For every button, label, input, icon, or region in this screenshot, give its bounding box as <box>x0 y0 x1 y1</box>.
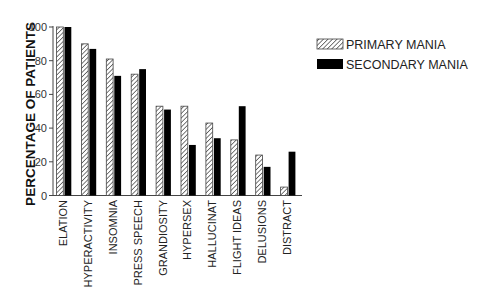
bar-secondary <box>264 167 271 196</box>
x-category-label: FLIGHT IDEAS <box>231 200 243 275</box>
bar-secondary <box>189 145 196 196</box>
y-tick-label: 60 <box>35 88 47 100</box>
bar-primary <box>181 106 188 195</box>
legend-item-secondary: SECONDARY MANIA <box>317 58 468 72</box>
bar-primary <box>231 140 238 196</box>
bar-primary <box>156 106 163 195</box>
x-category-label: HYPERSEX <box>181 199 193 260</box>
x-category-label: GRANDIOSITY <box>157 199 169 275</box>
x-category-label: DISTRACT <box>281 200 293 255</box>
x-category-label: HYPERACTIVITY <box>82 199 94 287</box>
y-axis-label: PERCENTAGE OF PATIENTS <box>23 22 38 206</box>
bar-primary <box>206 123 213 195</box>
legend-label-primary: PRIMARY MANIA <box>346 38 446 52</box>
bar-primary <box>57 27 64 196</box>
bar-secondary <box>289 152 296 196</box>
legend-label-secondary: SECONDARY MANIA <box>346 58 468 72</box>
y-tick-label: 0 <box>41 190 47 202</box>
y-tick-label: 80 <box>35 55 47 67</box>
bar-primary <box>81 44 88 196</box>
bar-secondary <box>139 69 146 195</box>
legend: PRIMARY MANIA SECONDARY MANIA <box>317 38 468 72</box>
bar-primary <box>106 59 113 195</box>
x-category-label: DELUSIONS <box>256 200 268 264</box>
bar-secondary <box>114 76 121 196</box>
y-tick-label: 40 <box>35 122 47 134</box>
bars <box>57 27 296 196</box>
y-tick-label: 20 <box>35 156 47 168</box>
bar-secondary <box>65 27 72 196</box>
legend-item-primary: PRIMARY MANIA <box>317 38 446 52</box>
y-tick-label: 100 <box>29 21 47 33</box>
x-category-label: ELATION <box>57 200 69 246</box>
bar-chart: PERCENTAGE OF PATIENTS 020406080100 ELAT… <box>0 0 483 304</box>
bar-secondary <box>164 110 171 196</box>
bar-secondary <box>239 106 246 195</box>
solid-swatch-icon <box>317 59 343 69</box>
bar-primary <box>256 155 263 195</box>
x-category-label: PRESS SPEECH <box>132 200 144 286</box>
hatched-swatch-icon <box>317 39 343 49</box>
bar-secondary <box>89 49 96 196</box>
x-category-label: HALLUCINAT <box>206 200 218 268</box>
bar-primary <box>131 74 138 195</box>
x-axis-labels: ELATIONHYPERACTIVITYINSOMNIAPRESS SPEECH… <box>57 199 293 287</box>
bar-secondary <box>214 138 221 195</box>
x-category-label: INSOMNIA <box>107 199 119 254</box>
bar-primary <box>281 187 288 195</box>
